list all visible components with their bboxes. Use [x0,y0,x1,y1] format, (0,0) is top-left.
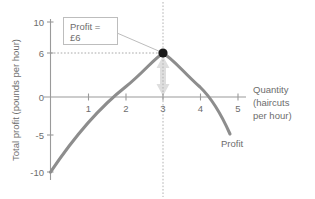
curve-label-profit: Profit [221,138,244,149]
callout-leader-line [117,33,161,52]
x-tick-label-5: 5 [235,103,240,114]
max-profit-point-marker [158,48,167,57]
profit-gap-arrow [157,56,170,96]
chart-canvas: 10 6 0 -5 -10 1 2 3 4 5 Profit = £6 [0,0,315,199]
x-axis-title: Quantity (haircuts per hour) [253,84,292,121]
x-tick-label-2: 2 [123,103,128,114]
x-tick-label-1: 1 [86,103,91,114]
y-tick-label-minus5: -5 [36,130,44,141]
x-axis-title-line-3: per hour) [253,110,292,121]
y-tick-label-0: 0 [39,92,44,103]
x-axis-title-line-1: Quantity [253,84,289,95]
y-axis-title: Total profit (pounds per hour) [10,39,21,161]
profit-chart-figure: 10 6 0 -5 -10 1 2 3 4 5 Profit = £6 [0,0,315,199]
callout-line-2: £6 [70,32,81,43]
x-tick-label-3: 3 [160,103,165,114]
y-tick-label-10: 10 [33,17,44,28]
x-axis-title-line-2: (haircuts [253,97,290,108]
profit-callout: Profit = £6 [64,18,118,45]
y-tick-label-6: 6 [39,48,44,59]
callout-line-1: Profit = [70,21,101,32]
y-tick-label-minus10: -10 [30,167,44,178]
x-tick-label-4: 4 [198,103,203,114]
